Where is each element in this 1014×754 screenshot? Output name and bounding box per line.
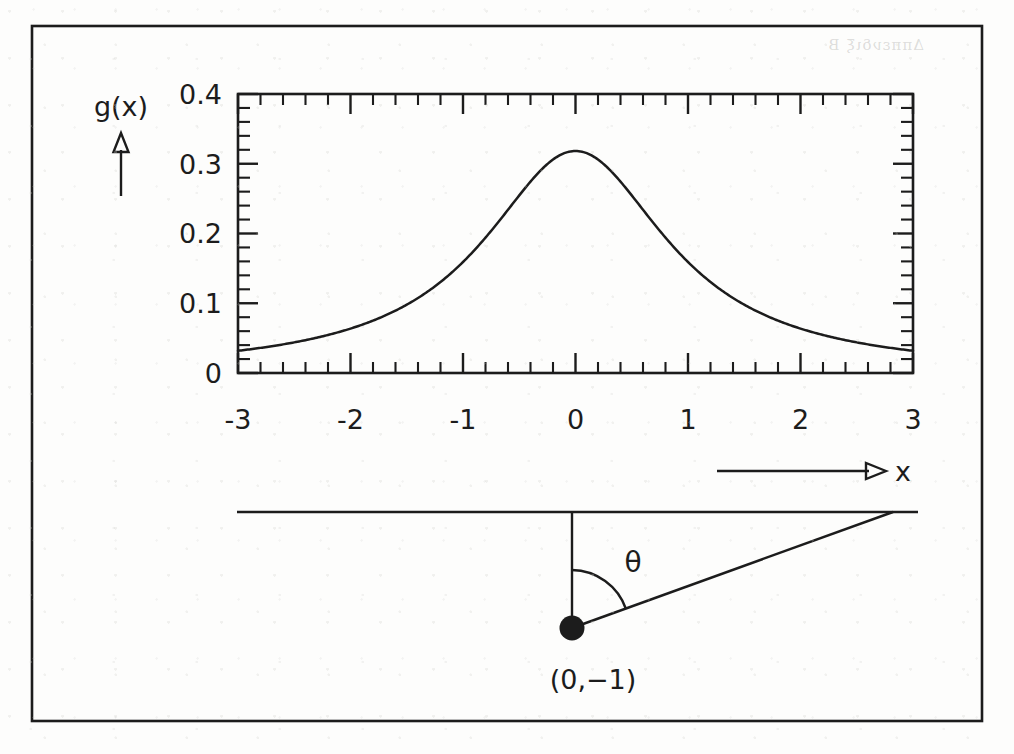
point-label: (0,−1) (550, 664, 637, 695)
y-axis-title: g(x) (94, 91, 148, 122)
y-axis-arrow (114, 133, 129, 196)
svg-text:0.4: 0.4 (179, 79, 222, 110)
angle-arc (572, 570, 626, 609)
x-tick-labels: -3 -2 -1 0 1 2 3 (225, 404, 922, 435)
svg-text:-2: -2 (337, 404, 364, 435)
svg-text:3: 3 (904, 404, 921, 435)
figure-canvas: 0.4 0.3 0.2 0.1 0 -3 -2 -1 0 1 2 3 g(x) … (0, 0, 1014, 754)
svg-text:0.1: 0.1 (179, 288, 222, 319)
svg-text:2: 2 (792, 404, 809, 435)
x-axis-title: x (895, 456, 911, 487)
svg-text:0.2: 0.2 (179, 218, 222, 249)
slanted-ray (572, 512, 893, 628)
svg-text:-3: -3 (225, 404, 252, 435)
svg-text:0.3: 0.3 (179, 149, 222, 180)
angle-geometry-diagram: θ (0,−1) (237, 512, 918, 695)
x-axis-arrow (717, 463, 886, 479)
svg-text:-1: -1 (450, 404, 477, 435)
x-axis-ticks-bottom (238, 353, 913, 373)
y-axis-ticks-right (893, 94, 913, 373)
y-tick-labels: 0.4 0.3 0.2 0.1 0 (179, 79, 222, 389)
data-curve-gx (238, 151, 913, 351)
x-axis-ticks-top (238, 94, 913, 114)
svg-text:1: 1 (679, 404, 696, 435)
figure-page: 0.4 0.3 0.2 0.1 0 -3 -2 -1 0 1 2 3 g(x) … (0, 0, 1014, 754)
angle-label: θ (624, 546, 641, 579)
point-marker (560, 616, 585, 641)
y-axis-ticks (238, 94, 258, 373)
svg-text:0: 0 (205, 358, 222, 389)
svg-text:0: 0 (567, 404, 584, 435)
